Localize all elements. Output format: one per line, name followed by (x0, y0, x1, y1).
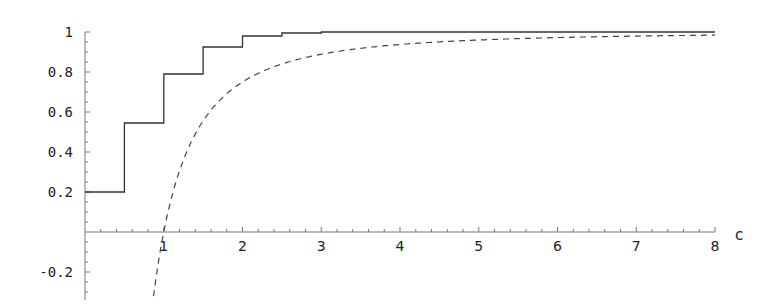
y-tick-label: -0.2 (39, 264, 73, 280)
y-tick-labels: -0.20.20.40.60.81 (39, 24, 73, 280)
x-tick-label: 7 (632, 238, 641, 254)
x-tick-label: 6 (553, 238, 562, 254)
x-tick-label: 5 (474, 238, 483, 254)
y-tick-label: 0.6 (48, 104, 73, 120)
y-tick-label: 1 (65, 24, 73, 40)
chart: -0.20.20.40.60.81 12345678 c (0, 0, 782, 308)
y-tick-label: 0.2 (48, 184, 73, 200)
axes (85, 32, 715, 300)
y-tick-label: 0.4 (48, 144, 73, 160)
x-tick-label: 8 (711, 238, 720, 254)
x-tick-label: 2 (238, 238, 247, 254)
x-axis-label: c (735, 226, 743, 244)
x-tick-label: 4 (396, 238, 405, 254)
dashed-curve-line (154, 35, 716, 296)
y-tick-label: 0.8 (48, 64, 73, 80)
step-series-line (85, 32, 715, 192)
x-tick-labels: 12345678 (159, 238, 719, 254)
x-tick-label: 3 (317, 238, 326, 254)
